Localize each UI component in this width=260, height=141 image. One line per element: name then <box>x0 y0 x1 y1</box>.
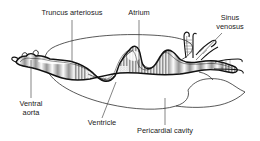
label-sinus-venosus-line1: Sinus <box>221 13 240 22</box>
label-sinus-venosus-line2: venosus <box>216 22 244 31</box>
label-ventral-aorta-line2: aorta <box>23 108 41 117</box>
label-ventral-aorta-line1: Ventral <box>19 99 42 108</box>
anatomical-figure: Truncus arteriosus Atrium Sinus venosus … <box>0 0 260 141</box>
label-pericardial-cavity: Pericardial cavity <box>137 126 193 135</box>
heart-diagram-svg: Truncus arteriosus Atrium Sinus venosus … <box>0 0 260 141</box>
leader-sinus-venosus <box>196 33 222 60</box>
label-atrium: Atrium <box>128 8 149 17</box>
label-ventricle: Ventricle <box>88 118 116 127</box>
label-truncus-arteriosus: Truncus arteriosus <box>42 8 103 17</box>
leader-ventricle <box>102 82 116 118</box>
